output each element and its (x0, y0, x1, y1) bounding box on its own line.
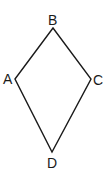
vertex-label-c: C (93, 72, 103, 88)
vertex-label-d: D (47, 155, 57, 171)
kite-outline (15, 28, 91, 152)
vertex-label-a: A (3, 71, 13, 87)
kite-diagram: B A C D (0, 0, 108, 175)
vertex-label-b: B (48, 12, 57, 28)
